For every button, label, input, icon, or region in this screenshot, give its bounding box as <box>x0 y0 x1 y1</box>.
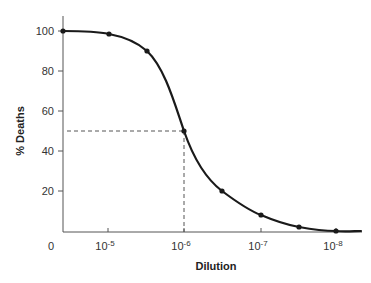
data-point <box>181 128 186 133</box>
data-point <box>258 212 263 217</box>
data-point <box>60 28 65 33</box>
dose-response-curve <box>63 31 361 231</box>
x-tick-labels: 0 10-5 10-6 10-7 10-8 <box>48 239 343 252</box>
y-ticks <box>58 31 63 191</box>
y-axis-title: % Deaths <box>14 106 26 156</box>
data-point <box>219 188 224 193</box>
y-tick-20: 20 <box>42 185 54 197</box>
data-point <box>144 48 149 53</box>
data-point <box>296 224 301 229</box>
x-origin-label: 0 <box>48 240 54 252</box>
y-tick-60: 60 <box>42 105 54 117</box>
y-tick-40: 40 <box>42 145 54 157</box>
x-axis-title: Dilution <box>196 260 237 272</box>
y-tick-labels: 100 80 60 40 20 <box>36 25 54 197</box>
y-tick-80: 80 <box>42 65 54 77</box>
y-tick-100: 100 <box>36 25 54 37</box>
x-tick-1e-6: 10-6 <box>171 239 191 252</box>
data-point <box>333 228 338 233</box>
chart: 100 80 60 40 20 0 10-5 10-6 10-7 10-8 Di… <box>0 0 371 283</box>
reference-lines <box>67 131 184 232</box>
data-point <box>106 31 111 36</box>
x-tick-1e-7: 10-7 <box>248 239 268 252</box>
x-tick-1e-8: 10-8 <box>323 239 343 252</box>
x-tick-1e-5: 10-5 <box>95 239 115 252</box>
